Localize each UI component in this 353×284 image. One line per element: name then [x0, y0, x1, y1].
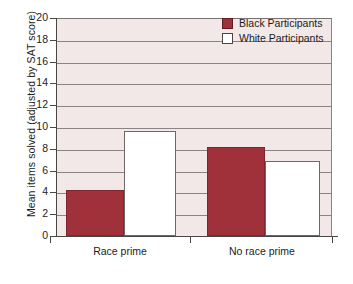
gridline [56, 106, 332, 107]
y-tick-mark [50, 214, 56, 215]
gridline [56, 63, 332, 64]
y-tick-label: 10 [18, 120, 48, 132]
bar-white-1 [265, 161, 320, 236]
gridline [56, 150, 332, 151]
legend-item-white: White Participants [222, 32, 324, 44]
y-tick-mark [50, 83, 56, 84]
x-axis-label-1: No race prime [202, 245, 322, 257]
x-axis-line [50, 236, 338, 237]
legend-item-black: Black Participants [222, 17, 324, 29]
x-tick-mark [50, 236, 51, 243]
legend-swatch-white-icon [222, 33, 233, 44]
y-tick-label: 18 [18, 33, 48, 45]
x-tick-mark [190, 236, 191, 243]
y-tick-mark [50, 149, 56, 150]
y-tick-label: 4 [18, 185, 48, 197]
y-tick-label: 12 [18, 98, 48, 110]
y-tick-mark [50, 62, 56, 63]
y-tick-mark [50, 18, 56, 19]
y-tick-label: 14 [18, 76, 48, 88]
legend-swatch-black-icon [222, 18, 233, 29]
plot-right-border [331, 18, 332, 236]
bar-black-1 [207, 147, 265, 236]
bar-chart: Mean items solved (adjusted by SAT score… [0, 0, 353, 284]
legend-label-black: Black Participants [239, 17, 322, 29]
y-tick-label: 0 [18, 229, 48, 241]
x-tick-mark [332, 236, 333, 243]
y-tick-mark [50, 105, 56, 106]
bar-white-0 [124, 131, 176, 236]
y-tick-mark [50, 40, 56, 41]
y-tick-label: 16 [18, 55, 48, 67]
y-axis-line [56, 18, 57, 236]
x-axis-label-0: Race prime [60, 245, 180, 257]
y-tick-label: 8 [18, 142, 48, 154]
gridline [56, 128, 332, 129]
y-tick-mark [50, 127, 56, 128]
y-tick-label: 2 [18, 207, 48, 219]
y-tick-mark [50, 171, 56, 172]
y-tick-mark [50, 192, 56, 193]
y-tick-label: 20 [18, 11, 48, 23]
legend-label-white: White Participants [239, 32, 324, 44]
y-tick-label: 6 [18, 164, 48, 176]
gridline [56, 84, 332, 85]
bar-black-0 [66, 190, 124, 236]
chart-legend: Black Participants White Participants [222, 17, 324, 44]
